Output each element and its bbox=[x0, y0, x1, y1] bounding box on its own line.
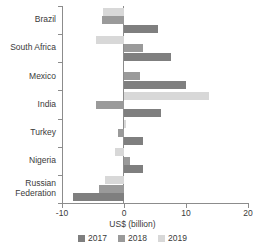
bar-2019-india bbox=[124, 92, 209, 100]
y-tick bbox=[58, 90, 63, 91]
bar-2017-russian-federation bbox=[73, 193, 124, 201]
bar-2019-brazil bbox=[103, 8, 124, 16]
y-category-label: Nigeria bbox=[0, 156, 56, 166]
bar-2018-russian-federation bbox=[99, 185, 124, 193]
x-axis-title: US$ (billion) bbox=[0, 219, 265, 229]
bar-2019-nigeria bbox=[115, 148, 124, 156]
x-tick-label: 20 bbox=[233, 208, 263, 218]
y-category-label: Brazil bbox=[0, 15, 56, 25]
x-tick-label: 10 bbox=[171, 208, 201, 218]
y-category-label: RussianFederation bbox=[0, 179, 56, 198]
bar-2017-turkey bbox=[124, 137, 143, 145]
bar-2017-brazil bbox=[124, 25, 158, 33]
y-category-label: Mexico bbox=[0, 72, 56, 82]
bar-2019-south-africa bbox=[96, 36, 124, 44]
legend-label: 2019 bbox=[168, 233, 187, 243]
y-tick bbox=[58, 147, 63, 148]
x-tick-label: -10 bbox=[47, 208, 77, 218]
bar-2019-russian-federation bbox=[105, 176, 124, 184]
horizontal-bar-chart: BrazilSouth AfricaMexicoIndiaTurkeyNiger… bbox=[0, 0, 265, 247]
bar-2018-brazil bbox=[102, 16, 124, 24]
bar-2018-mexico bbox=[124, 72, 140, 80]
legend-item-2019[interactable]: 2019 bbox=[158, 233, 187, 243]
x-tick-label: 0 bbox=[109, 208, 139, 218]
bar-2017-mexico bbox=[124, 81, 186, 89]
bar-2018-nigeria bbox=[124, 157, 130, 165]
y-category-label: India bbox=[0, 100, 56, 110]
y-tick bbox=[58, 119, 63, 120]
bar-2018-turkey bbox=[118, 129, 124, 137]
bar-2017-nigeria bbox=[124, 165, 143, 173]
y-tick bbox=[58, 34, 63, 35]
y-tick bbox=[58, 175, 63, 176]
legend-item-2017[interactable]: 2017 bbox=[78, 233, 107, 243]
legend-swatch-icon bbox=[78, 235, 85, 242]
bar-2018-south-africa bbox=[124, 44, 143, 52]
bar-2017-india bbox=[124, 109, 161, 117]
legend-label: 2018 bbox=[128, 233, 147, 243]
chart-legend: 201720182019 bbox=[0, 233, 265, 243]
y-category-label: South Africa bbox=[0, 43, 56, 53]
legend-swatch-icon bbox=[118, 235, 125, 242]
x-axis-line bbox=[62, 203, 249, 204]
legend-item-2018[interactable]: 2018 bbox=[118, 233, 147, 243]
bar-2017-south-africa bbox=[124, 53, 171, 61]
bar-2019-turkey bbox=[124, 120, 126, 128]
y-tick bbox=[58, 6, 63, 7]
legend-swatch-icon bbox=[158, 235, 165, 242]
legend-label: 2017 bbox=[88, 233, 107, 243]
bar-2018-india bbox=[96, 101, 124, 109]
y-category-label: Turkey bbox=[0, 128, 56, 138]
y-tick bbox=[58, 62, 63, 63]
